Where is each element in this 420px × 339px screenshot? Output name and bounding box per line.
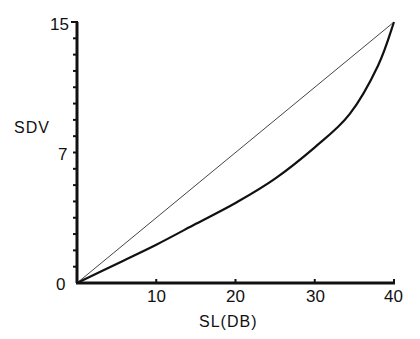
x-tick-label-10: 10 bbox=[147, 287, 166, 306]
x-tick-label-20: 20 bbox=[226, 287, 245, 306]
x-tick-label-30: 30 bbox=[306, 287, 325, 306]
sdv-vs-sl-chart: 15 7 0 10 20 30 40 SDV SL(DB) bbox=[0, 0, 420, 339]
y-tick-label-0: 0 bbox=[56, 275, 65, 294]
y-tick-label-7: 7 bbox=[58, 145, 67, 164]
y-axis-title: SDV bbox=[14, 119, 50, 136]
x-axis-title: SL(DB) bbox=[199, 313, 257, 330]
x-tick-label-40: 40 bbox=[384, 287, 403, 306]
diagonal-reference-line bbox=[77, 22, 394, 283]
y-tick-label-15: 15 bbox=[50, 15, 69, 34]
